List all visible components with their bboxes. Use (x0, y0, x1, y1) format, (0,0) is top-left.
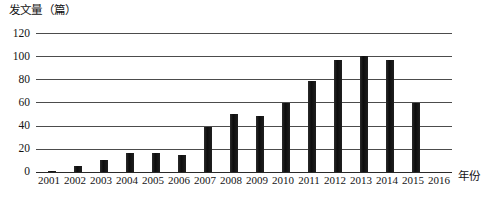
x-tick-label-2010: 2010 (270, 174, 296, 186)
x-tick-label-2001: 2001 (36, 174, 62, 186)
x-tick-label-2014: 2014 (374, 174, 400, 186)
bar-2003 (100, 160, 108, 172)
x-tick-labels: 2001200220032004200520062007200820092010… (0, 174, 487, 190)
bar-2007 (204, 127, 212, 172)
bar-2011 (308, 81, 316, 173)
bar-2008 (230, 114, 238, 172)
bar-2010 (282, 103, 290, 173)
bars-layer (36, 33, 452, 172)
x-tick-label-2013: 2013 (348, 174, 374, 186)
x-tick-label-2004: 2004 (114, 174, 140, 186)
y-tick-label-40: 40 (2, 119, 30, 131)
x-tick-label-2005: 2005 (140, 174, 166, 186)
x-axis-baseline (36, 172, 452, 173)
x-tick-label-2006: 2006 (166, 174, 192, 186)
x-tick-label-2015: 2015 (400, 174, 426, 186)
x-tick-label-2011: 2011 (296, 174, 322, 186)
bar-2004 (126, 153, 134, 172)
y-tick-label-120: 120 (2, 27, 30, 39)
x-tick-label-2009: 2009 (244, 174, 270, 186)
bar-2012 (334, 60, 342, 172)
bar-2009 (256, 116, 264, 172)
y-axis-title: 发文量（篇） (9, 1, 76, 17)
bar-2001 (48, 171, 56, 172)
y-tick-label-60: 60 (2, 96, 30, 108)
bar-chart: 发文量（篇） 年份 120 100 80 60 40 20 0 20012002… (0, 0, 487, 206)
bar-2014 (386, 60, 394, 172)
bar-2005 (152, 153, 160, 172)
y-tick-label-100: 100 (2, 50, 30, 62)
bar-2002 (74, 166, 82, 172)
bar-2006 (178, 155, 186, 172)
x-tick-label-2002: 2002 (62, 174, 88, 186)
x-tick-label-2007: 2007 (192, 174, 218, 186)
bar-2013 (360, 56, 368, 172)
x-tick-label-2012: 2012 (322, 174, 348, 186)
x-tick-label-2016: 2016 (426, 174, 452, 186)
y-tick-label-20: 20 (2, 142, 30, 154)
bar-2015 (412, 103, 420, 173)
y-tick-label-80: 80 (2, 73, 30, 85)
x-tick-label-2003: 2003 (88, 174, 114, 186)
x-tick-label-2008: 2008 (218, 174, 244, 186)
